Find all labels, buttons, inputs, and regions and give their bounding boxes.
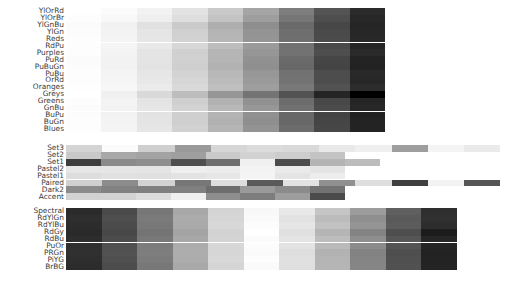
colormap-bin xyxy=(138,180,174,187)
colormap-bin xyxy=(208,15,243,22)
colormap-row: RdYlGn xyxy=(0,215,514,222)
colormap-bin xyxy=(279,256,315,263)
colormap-bin xyxy=(66,84,101,91)
colormap-bin xyxy=(137,208,173,215)
colormap-bin xyxy=(243,29,278,36)
colormap-bar xyxy=(66,145,500,152)
colormap-bin xyxy=(243,70,278,77)
colormap-bin xyxy=(66,22,101,29)
colormap-bin xyxy=(314,77,349,84)
colormap-bin xyxy=(66,43,101,50)
colormap-bin xyxy=(66,63,101,70)
colormap-bin xyxy=(137,105,172,112)
colormap-bin xyxy=(350,208,386,215)
colormap-bin xyxy=(101,159,136,166)
colormap-bin xyxy=(275,193,310,200)
colormap-bin xyxy=(421,243,457,250)
colormap-bin xyxy=(102,229,138,236)
colormap-bin xyxy=(240,159,275,166)
colormap-bin xyxy=(392,145,428,152)
colormap-bin xyxy=(279,112,314,119)
colormap-bin xyxy=(101,112,136,119)
colormap-bin xyxy=(279,125,314,132)
colormap-bin xyxy=(208,84,243,91)
colormap-bin xyxy=(101,84,136,91)
colormap-bin xyxy=(171,173,206,180)
colormap-row: Oranges xyxy=(0,84,514,91)
colormap-bin xyxy=(350,125,385,132)
colormap-bin xyxy=(206,173,241,180)
colormap-bin xyxy=(279,36,314,43)
colormap-bin xyxy=(279,249,315,256)
colormap-reference-figure: YlOrRdYlOrBrYlGnBuYlGnRedsRdPuPurplesPuR… xyxy=(0,0,514,284)
colormap-bin xyxy=(350,229,386,236)
colormap-bin xyxy=(172,98,207,105)
colormap-bin xyxy=(101,125,136,132)
colormap-bin xyxy=(101,91,136,98)
colormap-row: PRGn xyxy=(0,249,514,256)
colormap-bin xyxy=(208,70,243,77)
colormap-bin xyxy=(137,236,173,243)
colormap-bin xyxy=(208,118,243,125)
colormap-bin xyxy=(66,105,101,112)
colormap-bar xyxy=(66,49,385,56)
colormap-bin xyxy=(137,56,172,63)
colormap-bin xyxy=(244,222,280,229)
colormap-bin xyxy=(171,166,206,173)
colormap-bin xyxy=(175,180,211,187)
colormap-row: Pastel2 xyxy=(0,166,514,173)
colormap-bin xyxy=(172,84,207,91)
colormap-bin xyxy=(350,22,385,29)
colormap-bin xyxy=(314,118,349,125)
colormap-bin xyxy=(243,63,278,70)
colormap-bin xyxy=(314,112,349,119)
colormap-bin xyxy=(310,152,345,159)
colormap-bar xyxy=(66,208,457,215)
colormap-bin xyxy=(208,8,243,15)
colormap-bin xyxy=(66,125,101,132)
colormap-bar xyxy=(66,186,345,193)
colormap-bin xyxy=(173,215,209,222)
colormap-bin xyxy=(314,22,349,29)
colormap-bin xyxy=(172,91,207,98)
colormap-bin xyxy=(137,29,172,36)
colormap-bin xyxy=(208,256,244,263)
colormap-row: Spectral xyxy=(0,208,514,215)
colormap-bin xyxy=(137,36,172,43)
colormap-bin xyxy=(101,56,136,63)
colormap-bin xyxy=(386,208,422,215)
colormap-bin xyxy=(102,236,138,243)
colormap-bin xyxy=(66,186,101,193)
colormap-bin xyxy=(421,229,457,236)
colormap-bin xyxy=(206,152,241,159)
colormap-bin xyxy=(314,29,349,36)
colormap-bin xyxy=(66,215,102,222)
colormap-bin xyxy=(66,15,101,22)
colormap-bin xyxy=(350,84,385,91)
colormap-row: Pastel1 xyxy=(0,173,514,180)
colormap-bin xyxy=(173,249,209,256)
colormap-bin xyxy=(101,70,136,77)
colormap-bin xyxy=(386,229,422,236)
colormap-bin xyxy=(136,152,171,159)
colormap-bin xyxy=(350,249,386,256)
colormap-bin xyxy=(101,36,136,43)
colormap-label: BrBG xyxy=(45,263,64,270)
colormap-bin xyxy=(66,145,102,152)
colormap-bin xyxy=(243,77,278,84)
colormap-bin xyxy=(208,29,243,36)
colormap-row: Accent xyxy=(0,193,514,200)
colormap-bin xyxy=(173,256,209,263)
colormap-bin xyxy=(66,36,101,43)
colormap-bin xyxy=(101,22,136,29)
colormap-bin xyxy=(173,236,209,243)
colormap-bin xyxy=(319,180,355,187)
colormap-bin xyxy=(175,145,211,152)
colormap-bin xyxy=(101,193,136,200)
colormap-bin xyxy=(66,112,101,119)
colormap-bin xyxy=(172,22,207,29)
colormap-bin xyxy=(66,77,101,84)
colormap-row: Set3 xyxy=(0,145,514,152)
colormap-bin xyxy=(279,56,314,63)
colormap-bin xyxy=(173,243,209,250)
